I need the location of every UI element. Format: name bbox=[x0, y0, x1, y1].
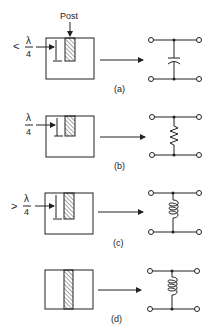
terminal bbox=[197, 230, 202, 235]
terminal bbox=[195, 307, 200, 312]
terminal bbox=[197, 38, 202, 43]
post bbox=[65, 116, 75, 136]
panel-c: > λ 4 (c) bbox=[11, 191, 202, 249]
lambda-symbol: λ bbox=[26, 112, 31, 123]
lambda-symbol: λ bbox=[26, 35, 31, 46]
terminal bbox=[195, 269, 200, 274]
waveguide-post-diagram: Post < λ 4 (a) bbox=[0, 0, 212, 332]
terminal bbox=[150, 115, 155, 120]
terminal bbox=[197, 191, 202, 196]
caption-a: (a) bbox=[114, 84, 125, 94]
resistor-zigzag bbox=[170, 117, 178, 155]
inductor-circuit bbox=[148, 269, 200, 312]
fraction-denominator: 4 bbox=[24, 207, 29, 217]
terminal bbox=[149, 230, 154, 235]
fraction-denominator: 4 bbox=[26, 49, 31, 59]
caption-b: (b) bbox=[114, 161, 125, 171]
capacitor-circuit bbox=[149, 38, 202, 82]
relation-symbol: < bbox=[13, 40, 19, 52]
fraction-denominator: 4 bbox=[26, 127, 31, 137]
post bbox=[64, 270, 73, 309]
caption-c: (c) bbox=[113, 238, 124, 248]
panel-d: (d) bbox=[45, 269, 200, 325]
terminal bbox=[150, 153, 155, 158]
terminal bbox=[149, 191, 154, 196]
terminal bbox=[148, 269, 153, 274]
caption-d: (d) bbox=[111, 314, 122, 324]
terminal bbox=[197, 153, 202, 158]
relation-symbol: > bbox=[11, 200, 17, 212]
inductor-coil bbox=[169, 193, 178, 232]
post-label: Post bbox=[60, 11, 79, 21]
terminal bbox=[197, 77, 202, 82]
resistor-circuit bbox=[150, 115, 202, 158]
panel-b: λ 4 (b) bbox=[25, 112, 202, 171]
terminal bbox=[197, 115, 202, 120]
lambda-symbol: λ bbox=[24, 193, 29, 204]
terminal bbox=[149, 77, 154, 82]
post bbox=[65, 38, 75, 61]
panel-a: Post < λ 4 (a) bbox=[13, 11, 202, 94]
terminal bbox=[148, 307, 153, 312]
post bbox=[64, 193, 74, 219]
inductor-coil bbox=[168, 271, 177, 309]
terminal bbox=[149, 38, 154, 43]
inductor-circuit bbox=[149, 191, 202, 235]
